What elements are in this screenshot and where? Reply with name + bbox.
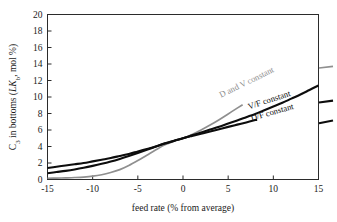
x-tick-label: -10 xyxy=(86,184,99,194)
y-axis-tick-labels: 02468101214161820 xyxy=(33,10,43,185)
x-tick-label: -15 xyxy=(41,184,54,194)
y-tick-label: 18 xyxy=(33,26,43,36)
y-tick-label: 6 xyxy=(38,125,43,135)
y-tick-label: 8 xyxy=(38,109,43,119)
curve-d-and-v-constant xyxy=(48,105,243,179)
y-axis-title-italic: LK xyxy=(8,80,18,93)
y-axis-title-mid: in bottoms ( xyxy=(8,92,19,140)
y-tick-label: 14 xyxy=(33,59,43,69)
stub-vf-constant xyxy=(319,121,333,124)
x-tick-label: 0 xyxy=(181,184,186,194)
x-axis-title: feed rate (% from average) xyxy=(132,203,234,214)
y-axis-title-tail: , mol %) xyxy=(8,44,19,77)
y-tick-label: 10 xyxy=(33,92,43,102)
stub-df-constant xyxy=(319,101,333,103)
x-tick-label: -5 xyxy=(134,184,142,194)
curve-edge-stubs xyxy=(319,66,333,123)
y-tick-label: 20 xyxy=(33,10,43,20)
x-tick-label: 5 xyxy=(226,184,231,194)
y-tick-label: 4 xyxy=(38,142,43,152)
chart-figure: -15-10-5051015 02468101214161820 D and V… xyxy=(0,0,337,222)
y-tick-label: 0 xyxy=(38,175,43,185)
y-tick-label: 16 xyxy=(33,43,43,53)
x-tick-label: 15 xyxy=(314,184,324,194)
y-axis-title: C3 in bottoms (LKb, mol %) xyxy=(8,44,22,150)
x-axis-tick-labels: -15-10-5051015 xyxy=(41,184,323,194)
y-tick-label: 2 xyxy=(38,158,43,168)
y-tick-label: 12 xyxy=(33,76,43,86)
stub-d-and-v-constant xyxy=(319,66,333,68)
svg-text:C3 in bottoms (LKb, mol %): C3 in bottoms (LKb, mol %) xyxy=(8,44,22,150)
x-tick-label: 10 xyxy=(269,184,279,194)
y-axis-ticks xyxy=(48,15,52,180)
chart-plot-area: -15-10-5051015 02468101214161820 D and V… xyxy=(0,0,337,222)
